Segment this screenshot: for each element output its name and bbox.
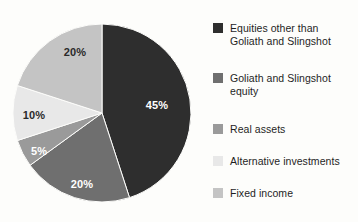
pie-chart-figure: 45%20%5%10%20% Equities other than Golia… xyxy=(0,0,358,222)
pie-chart-plot-area: 45%20%5%10%20% xyxy=(0,0,205,222)
legend-item-equities-other[interactable]: Equities other than Goliath and Slingsho… xyxy=(213,22,358,47)
pie-slice-data-label: 45% xyxy=(146,99,168,111)
legend-swatch-fixed-income xyxy=(213,188,223,198)
legend-label-alternative-investments: Alternative investments xyxy=(230,155,340,168)
legend-item-alternative-investments[interactable]: Alternative investments xyxy=(213,155,358,168)
pie-slice-data-label: 10% xyxy=(23,109,45,121)
legend-item-fixed-income[interactable]: Fixed income xyxy=(213,187,358,200)
chart-legend: Equities other than Goliath and Slingsho… xyxy=(213,15,358,215)
pie-chart-svg: 45%20%5%10%20% xyxy=(0,0,205,222)
legend-swatch-alternative-investments xyxy=(213,156,223,166)
pie-slice-data-label: 20% xyxy=(71,178,93,190)
legend-label-equities-other: Equities other than Goliath and Slingsho… xyxy=(230,22,331,47)
legend-swatch-real-assets xyxy=(213,124,223,134)
legend-item-real-assets[interactable]: Real assets xyxy=(213,123,358,136)
pie-slice-data-label: 5% xyxy=(31,145,47,157)
legend-label-fixed-income: Fixed income xyxy=(230,187,293,200)
pie-slice-data-label: 20% xyxy=(64,46,86,58)
legend-swatch-goliath-slingshot-equity xyxy=(213,73,223,83)
legend-label-real-assets: Real assets xyxy=(230,123,285,136)
legend-item-goliath-slingshot-equity[interactable]: Goliath and Slingshot equity xyxy=(213,72,358,97)
legend-swatch-equities-other xyxy=(213,23,223,33)
legend-label-goliath-slingshot-equity: Goliath and Slingshot equity xyxy=(230,72,331,97)
